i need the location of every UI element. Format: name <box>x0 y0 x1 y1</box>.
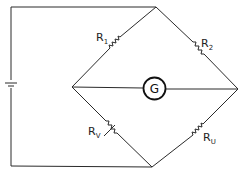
top-left-wire <box>11 7 156 80</box>
wire-rv-top <box>72 87 106 121</box>
wheatstone-bridge-diagram: G R1 R2 RV RU <box>0 0 245 177</box>
wire-r2-bottom <box>204 54 238 89</box>
label-r1: R1 <box>96 31 108 46</box>
wire-ru-top <box>203 89 238 124</box>
bottom-left-wire <box>11 88 152 167</box>
battery-icon <box>5 83 17 86</box>
wire-ru-bottom <box>152 135 193 167</box>
wire-g-left <box>72 87 143 88</box>
label-r2: R2 <box>201 37 213 52</box>
wire-r1-bottom <box>72 48 110 87</box>
wire-r1-top <box>120 7 156 37</box>
resistor-rv-icon <box>106 121 117 133</box>
wire-rv-bottom <box>117 133 152 167</box>
resistor-r1-icon <box>109 36 120 48</box>
label-rv: RV <box>88 125 101 140</box>
resistor-ru-icon <box>192 123 203 135</box>
label-ru: RU <box>203 131 216 146</box>
wire-r2-top <box>156 7 193 42</box>
galvanometer-label: G <box>150 82 159 96</box>
rv-variable-arrow <box>104 125 115 136</box>
